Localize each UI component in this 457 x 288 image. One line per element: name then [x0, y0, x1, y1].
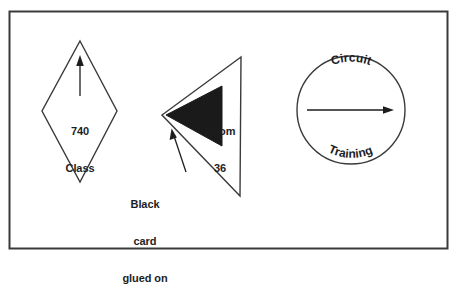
diamond-label-line2: Class — [59, 162, 101, 174]
black-card-annotation-line1: Black — [107, 198, 183, 210]
triangle-label: Room 36 — [200, 100, 240, 199]
black-card-annotation: Black card glued on — [107, 173, 183, 288]
black-card-annotation-line2: card — [107, 235, 183, 247]
diamond-label-line1: 740 — [59, 125, 101, 137]
black-card-annotation-line3: glued on — [107, 272, 183, 284]
triangle-label-line2: 36 — [200, 162, 240, 174]
triangle-label-line1: Room — [200, 125, 240, 137]
diamond-label: 740 Class — [59, 100, 101, 199]
